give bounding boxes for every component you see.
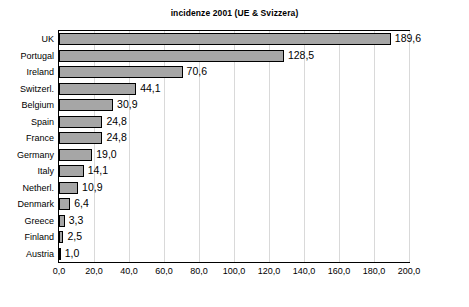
gridline xyxy=(409,31,410,262)
bar[interactable] xyxy=(59,50,284,62)
category-label: Belgium xyxy=(21,97,54,114)
value-label: 19,0 xyxy=(96,146,116,163)
bar[interactable] xyxy=(59,83,136,95)
x-tick-label: 160,0 xyxy=(328,266,351,276)
value-label: 10,9 xyxy=(82,179,102,196)
bar[interactable] xyxy=(59,66,183,78)
bar[interactable] xyxy=(59,33,391,45)
value-label: 14,1 xyxy=(88,162,108,179)
bar-row: Portugal128,5 xyxy=(59,48,409,65)
value-label: 2,5 xyxy=(67,228,82,245)
value-label: 189,6 xyxy=(395,30,421,47)
bar[interactable] xyxy=(59,149,92,161)
value-label: 44,1 xyxy=(140,80,160,97)
category-label: Denmark xyxy=(17,196,54,213)
value-label: 24,8 xyxy=(106,129,126,146)
x-tick-label: 40,0 xyxy=(120,266,138,276)
category-label: Spain xyxy=(31,114,54,131)
bar[interactable] xyxy=(59,132,102,144)
category-label: Switzerl. xyxy=(20,81,54,98)
bar[interactable] xyxy=(59,198,70,210)
bar-row: Ireland70,6 xyxy=(59,64,409,81)
x-tick-label: 140,0 xyxy=(293,266,316,276)
bar-row: Denmark6,4 xyxy=(59,196,409,213)
bar-row: Greece3,3 xyxy=(59,213,409,230)
category-label: Greece xyxy=(24,213,54,230)
bar-row: Spain24,8 xyxy=(59,114,409,131)
bar-row: Netherl.10,9 xyxy=(59,180,409,197)
bar-row: Switzerl.44,1 xyxy=(59,81,409,98)
category-label: Ireland xyxy=(26,64,54,81)
bar-row: UK189,6 xyxy=(59,31,409,48)
bar-row: Finland2,5 xyxy=(59,229,409,246)
x-tick-label: 0,0 xyxy=(53,266,66,276)
x-tick-label: 60,0 xyxy=(155,266,173,276)
value-label: 3,3 xyxy=(69,212,84,229)
category-label: UK xyxy=(41,31,54,48)
bar-row: Germany19,0 xyxy=(59,147,409,164)
bar[interactable] xyxy=(59,231,63,243)
x-tick-label: 200,0 xyxy=(398,266,421,276)
bar[interactable] xyxy=(59,99,113,111)
x-axis: 0,020,040,060,080,0100,0120,0140,0160,01… xyxy=(58,266,410,280)
bar[interactable] xyxy=(59,182,78,194)
category-label: Netherl. xyxy=(22,180,54,197)
x-tick-label: 80,0 xyxy=(190,266,208,276)
value-label: 70,6 xyxy=(187,63,207,80)
bar-row: Belgium30,9 xyxy=(59,97,409,114)
category-label: Finland xyxy=(24,229,54,246)
bar-row: Italy14,1 xyxy=(59,163,409,180)
category-label: Austria xyxy=(26,246,54,263)
category-label: Italy xyxy=(37,163,54,180)
bar-row: Austria1,0 xyxy=(59,246,409,263)
category-label: France xyxy=(26,130,54,147)
value-label: 1,0 xyxy=(65,245,80,262)
value-label: 128,5 xyxy=(288,47,314,64)
value-label: 24,8 xyxy=(106,113,126,130)
value-label: 6,4 xyxy=(74,195,89,212)
chart-title: incidenze 2001 (UE & Svizzera) xyxy=(0,8,469,18)
x-tick-label: 20,0 xyxy=(85,266,103,276)
bar[interactable] xyxy=(59,248,61,260)
category-label: Germany xyxy=(17,147,54,164)
bar[interactable] xyxy=(59,165,84,177)
bar[interactable] xyxy=(59,116,102,128)
x-tick-label: 100,0 xyxy=(223,266,246,276)
category-label: Portugal xyxy=(20,48,54,65)
x-tick-label: 180,0 xyxy=(363,266,386,276)
bar-chart: incidenze 2001 (UE & Svizzera) UK189,6Po… xyxy=(0,0,469,307)
x-tick-label: 120,0 xyxy=(258,266,281,276)
value-label: 30,9 xyxy=(117,96,137,113)
bar-row: France24,8 xyxy=(59,130,409,147)
bar[interactable] xyxy=(59,215,65,227)
plot-area: UK189,6Portugal128,5Ireland70,6Switzerl.… xyxy=(58,30,410,263)
